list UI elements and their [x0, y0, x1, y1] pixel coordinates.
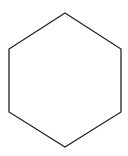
- hexagon-shape: [9, 13, 121, 147]
- diagram-canvas: [0, 0, 128, 156]
- hexagon-figure: [0, 0, 128, 156]
